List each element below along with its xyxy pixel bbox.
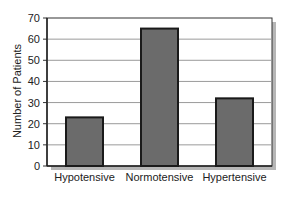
x-tick-label: Hypotensive <box>54 171 115 183</box>
y-tick-label: 0 <box>34 160 40 172</box>
bar-normotensive <box>141 29 178 166</box>
y-tick-label: 40 <box>28 75 40 87</box>
bar-chart: 010203040506070HypotensiveNormotensiveHy… <box>0 0 290 197</box>
y-tick-label: 60 <box>28 33 40 45</box>
bar-hypotensive <box>66 117 103 166</box>
y-tick-label: 30 <box>28 97 40 109</box>
x-tick-label: Normotensive <box>126 171 194 183</box>
bar-hypertensive <box>216 98 253 166</box>
x-tick-label: Hypertensive <box>202 171 266 183</box>
y-tick-label: 10 <box>28 139 40 151</box>
y-tick-label: 50 <box>28 54 40 66</box>
y-tick-label: 70 <box>28 12 40 24</box>
y-tick-label: 20 <box>28 118 40 130</box>
